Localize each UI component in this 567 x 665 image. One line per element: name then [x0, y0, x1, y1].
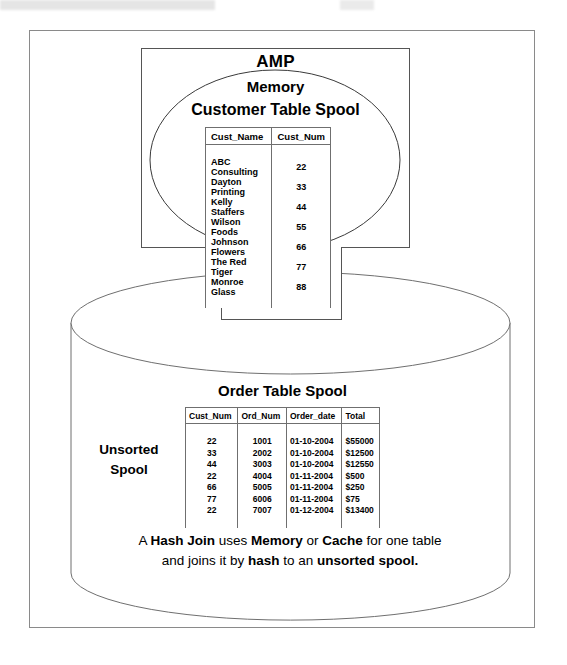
cell-cust-name: Monroe Glass: [206, 277, 272, 297]
cell-total: $250: [342, 482, 380, 494]
table-row: 44 3003 01-10-2004 $12550: [186, 459, 380, 471]
cell-total: $12500: [342, 447, 380, 459]
order-table-bottom-edge: [186, 516, 380, 528]
cell-cust-num: 33: [272, 177, 331, 197]
cell-ord-num: 5005: [238, 482, 286, 494]
table-row: Dayton Printing 33: [206, 177, 331, 197]
caption-bold-cache: Cache: [322, 533, 363, 548]
cell-total: $13400: [342, 505, 380, 517]
order-spacer-row: [186, 424, 380, 436]
customer-table-bottom-edge: [206, 297, 331, 309]
caption-bold-hash: hash: [248, 553, 280, 568]
customer-col-cust-num: Cust_Num: [272, 128, 331, 145]
caption-text: or: [303, 533, 323, 548]
cell-order-date: 01-11-2004: [286, 470, 342, 482]
unsorted-spool-label-line2: Spool: [110, 462, 148, 477]
order-table: Cust_Num Ord_Num Order_date Total 22 100…: [185, 407, 380, 528]
table-row: 22 1001 01-10-2004 $55000: [186, 436, 380, 448]
customer-spacer-row: [206, 145, 331, 157]
cell-cust-num: 66: [272, 237, 331, 257]
order-col-cust-num: Cust_Num: [186, 408, 238, 424]
caption-text: for one table: [363, 533, 442, 548]
table-row: 66 5005 01-11-2004 $250: [186, 482, 380, 494]
cell-order-date: 01-10-2004: [286, 447, 342, 459]
table-row: The Red Tiger 77: [206, 257, 331, 277]
cell-order-date: 01-10-2004: [286, 436, 342, 448]
table-row: 77 6006 01-11-2004 $75: [186, 493, 380, 505]
cell-cust-num: 22: [186, 505, 238, 517]
cell-order-date: 01-12-2004: [286, 505, 342, 517]
table-row: Monroe Glass 88: [206, 277, 331, 297]
cell-cust-num: 77: [272, 257, 331, 277]
caption-text: to an: [280, 553, 318, 568]
table-row: Wilson Foods 55: [206, 217, 331, 237]
cell-cust-num: 44: [272, 197, 331, 217]
table-row: Johnson Flowers 66: [206, 237, 331, 257]
caption-bold-memory: Memory: [251, 533, 303, 548]
cell-ord-num: 3003: [238, 459, 286, 471]
hash-join-caption: A Hash Join uses Memory or Cache for one…: [80, 531, 500, 570]
customer-table-spool-title: Customer Table Spool: [121, 101, 430, 119]
order-table-header-row: Cust_Num Ord_Num Order_date Total: [186, 408, 380, 424]
customer-table: Cust_Name Cust_Num ABC Consulting 22 Day…: [205, 127, 331, 308]
unsorted-spool-label-line1: Unsorted: [99, 442, 158, 457]
caption-text: and joins it by: [162, 553, 248, 568]
cell-cust-num: 33: [186, 447, 238, 459]
cell-total: $55000: [342, 436, 380, 448]
cell-cust-num: 22: [186, 436, 238, 448]
cell-ord-num: 1001: [238, 436, 286, 448]
cell-total: $500: [342, 470, 380, 482]
customer-table-header-row: Cust_Name Cust_Num: [206, 128, 331, 145]
cell-ord-num: 4004: [238, 470, 286, 482]
cell-cust-name: The Red Tiger: [206, 257, 272, 277]
table-row: ABC Consulting 22: [206, 157, 331, 177]
cell-cust-num: 88: [272, 277, 331, 297]
caption-line-1: A Hash Join uses Memory or Cache for one…: [80, 531, 500, 551]
cell-ord-num: 6006: [238, 493, 286, 505]
cell-ord-num: 7007: [238, 505, 286, 517]
cell-cust-num: 66: [186, 482, 238, 494]
cell-cust-name: Dayton Printing: [206, 177, 272, 197]
unsorted-spool-label: Unsorted Spool: [74, 440, 184, 479]
caption-bold-hash-join: Hash Join: [150, 533, 215, 548]
table-row: 22 7007 01-12-2004 $13400: [186, 505, 380, 517]
cell-cust-num: 22: [186, 470, 238, 482]
caption-text: A: [138, 533, 150, 548]
order-col-ord-num: Ord_Num: [238, 408, 286, 424]
cell-total: $75: [342, 493, 380, 505]
memory-label: Memory: [141, 78, 410, 95]
cell-ord-num: 2002: [238, 447, 286, 459]
table-row: 22 4004 01-11-2004 $500: [186, 470, 380, 482]
caption-bold-unsorted-spool: unsorted spool.: [317, 553, 418, 568]
cell-order-date: 01-10-2004: [286, 459, 342, 471]
cell-cust-name: Kelly Staffers: [206, 197, 272, 217]
amp-label: AMP: [141, 52, 410, 72]
cell-cust-num: 22: [272, 157, 331, 177]
order-table-spool-title: Order Table Spool: [155, 382, 410, 399]
cell-order-date: 01-11-2004: [286, 482, 342, 494]
cell-cust-num: 44: [186, 459, 238, 471]
caption-line-2: and joins it by hash to an unsorted spoo…: [80, 551, 500, 571]
table-row: Kelly Staffers 44: [206, 197, 331, 217]
order-col-total: Total: [342, 408, 380, 424]
cell-cust-num: 77: [186, 493, 238, 505]
customer-col-cust-name: Cust_Name: [206, 128, 272, 145]
table-row: 33 2002 01-10-2004 $12500: [186, 447, 380, 459]
cell-cust-name: ABC Consulting: [206, 157, 272, 177]
cell-order-date: 01-11-2004: [286, 493, 342, 505]
cell-cust-num: 55: [272, 217, 331, 237]
cell-total: $12550: [342, 459, 380, 471]
cell-cust-name: Johnson Flowers: [206, 237, 272, 257]
order-col-order-date: Order_date: [286, 408, 342, 424]
diagram-canvas: AMP Memory Customer Table Spool Cust_Nam…: [0, 0, 567, 665]
cell-cust-name: Wilson Foods: [206, 217, 272, 237]
scan-artifact: [0, 0, 567, 10]
caption-text: uses: [215, 533, 251, 548]
